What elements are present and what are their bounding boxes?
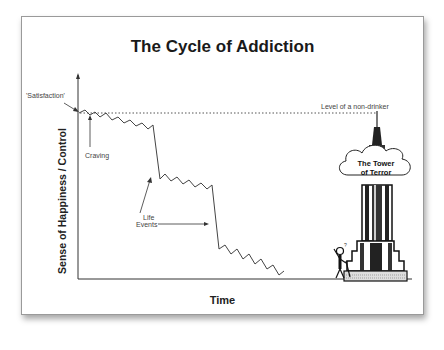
tower-of-terror-label: The Tower of Terror [352, 159, 400, 177]
svg-text:?: ? [344, 242, 347, 248]
declining-happiness-line [79, 110, 284, 275]
life-events-label: Life Events [136, 214, 157, 228]
craving-label: Craving [85, 152, 109, 159]
satisfaction-label: 'Satisfaction' [26, 92, 65, 99]
tower-of-terror-icon [344, 111, 407, 281]
y-axis-label: Sense of Happiness / Control [56, 101, 68, 301]
x-axis-label: Time [22, 294, 423, 306]
non-drinker-level-label: Level of a non-drinker [321, 103, 389, 110]
diagram-card: The Cycle of Addiction [21, 16, 424, 315]
y-axis [76, 73, 80, 279]
